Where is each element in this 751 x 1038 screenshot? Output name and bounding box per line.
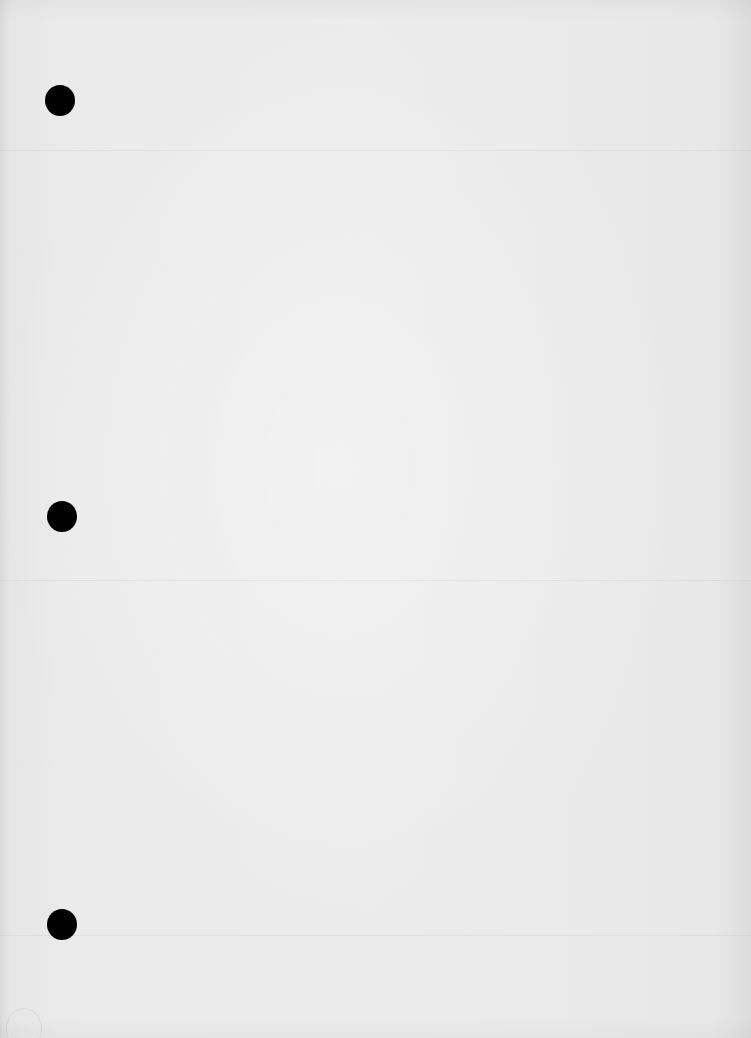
paper-crease-bottom [0, 935, 751, 936]
punch-hole-top [45, 85, 75, 116]
paper-crease-top [0, 150, 751, 151]
punch-hole-middle [47, 501, 77, 532]
punch-hole-bottom [47, 909, 77, 940]
paper-sheet [0, 0, 751, 1038]
paper-corner-mark [6, 1008, 42, 1038]
paper-crease-middle [0, 580, 751, 581]
